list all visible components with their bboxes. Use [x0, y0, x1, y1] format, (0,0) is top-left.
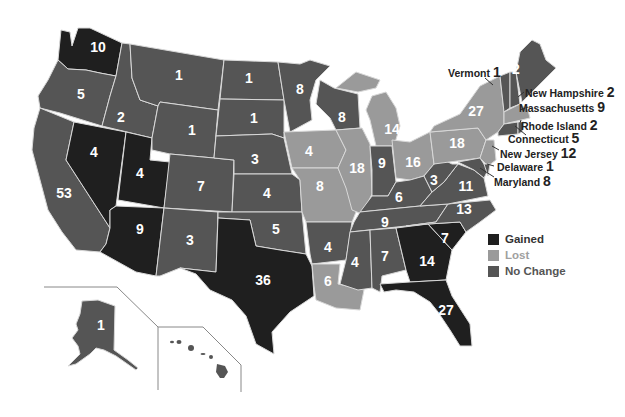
state-value-nd: 1 [245, 70, 253, 86]
us-map: 1055324491173113453684846818149166947142… [0, 0, 625, 417]
legend: Gained Lost No Change [488, 231, 566, 279]
state-value-or: 5 [77, 86, 85, 102]
state-value-in: 9 [378, 155, 386, 171]
state-value-ia: 4 [305, 143, 313, 159]
legend-swatch-gained [488, 234, 499, 245]
state-value-sc: 7 [441, 230, 449, 246]
legend-item-no-change: No Change [488, 263, 566, 279]
state-MI-UP[interactable] [336, 72, 380, 92]
legend-label-gained: Gained [505, 233, 544, 245]
state-value-wv: 3 [430, 172, 438, 188]
legend-label-no-change: No Change [505, 265, 566, 277]
state-value-ar: 4 [324, 239, 332, 255]
state-value-mo: 8 [316, 178, 324, 194]
state-value-co: 7 [197, 178, 205, 194]
state-value-wy: 1 [188, 122, 196, 138]
callout-vermont: Vermont 1 [448, 64, 501, 80]
state-value-ok: 5 [272, 221, 280, 237]
state-value-mn: 8 [296, 81, 304, 97]
state-value-mt: 1 [175, 67, 183, 83]
state-value-ky: 6 [395, 189, 403, 205]
state-FL[interactable] [380, 280, 472, 346]
state-value-wa: 10 [90, 39, 106, 55]
state-value-ca: 53 [56, 185, 72, 201]
state-value-tx: 36 [255, 272, 271, 288]
state-HI[interactable] [170, 340, 228, 378]
state-value-fl: 27 [438, 302, 454, 318]
legend-swatch-no-change [488, 266, 499, 277]
legend-label-lost: Lost [505, 249, 529, 261]
hawaii-inset-border-2 [158, 327, 241, 392]
state-WY[interactable] [152, 102, 218, 158]
state-value-oh: 16 [405, 154, 421, 170]
state-value-va: 11 [459, 178, 474, 194]
state-value-tn: 9 [381, 214, 389, 230]
state-value-ms: 4 [351, 254, 359, 270]
state-value-me: 2 [512, 61, 520, 77]
state-value-pa: 18 [449, 135, 465, 151]
state-value-ks: 4 [263, 185, 271, 201]
callout-rhode-island: Rhode Island 2 [521, 117, 598, 133]
state-IA[interactable] [284, 130, 346, 168]
state-value-az: 9 [136, 221, 144, 237]
state-AK[interactable] [68, 300, 138, 370]
state-value-la: 6 [324, 273, 332, 289]
legend-item-lost: Lost [488, 247, 566, 263]
state-value-nv: 4 [90, 144, 98, 160]
state-value-al: 7 [381, 248, 389, 264]
state-value-sd: 1 [250, 110, 258, 126]
state-value-nc: 13 [456, 201, 472, 217]
legend-item-gained: Gained [488, 231, 566, 247]
state-value-il: 18 [349, 160, 365, 176]
state-value-hi: 2 [189, 356, 197, 372]
state-value-mi: 14 [384, 121, 400, 137]
state-MI[interactable] [366, 92, 400, 146]
state-value-ut: 4 [136, 165, 144, 181]
callout-new-hampshire: New Hampshire 2 [525, 84, 615, 100]
state-value-wi: 8 [338, 109, 346, 125]
legend-swatch-lost [488, 250, 499, 261]
state-value-ak: 1 [97, 317, 105, 333]
state-value-ny: 27 [468, 103, 484, 119]
callout-delaware: Delaware 1 [497, 158, 554, 174]
state-AZ[interactable] [100, 206, 164, 276]
state-value-id: 2 [117, 109, 125, 125]
callout-maryland: Maryland 8 [494, 173, 551, 189]
state-value-ga: 14 [419, 253, 435, 269]
callout-connecticut: Connecticut 5 [508, 130, 580, 146]
callout-massachusetts: Massachusetts 9 [519, 99, 605, 115]
callout-new-jersey: New Jersey 12 [500, 145, 577, 161]
state-value-nm: 3 [186, 232, 194, 248]
state-value-ne: 3 [251, 151, 259, 167]
